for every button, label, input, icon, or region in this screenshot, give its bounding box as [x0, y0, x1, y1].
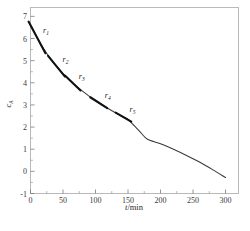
y-tick-label: 6	[23, 35, 27, 44]
rate-labels-group: r1r2r3r4r5	[43, 26, 136, 115]
x-tick-label: 300	[220, 196, 232, 205]
y-axis-title-group: cA	[3, 100, 14, 108]
chart-plot: -101234567 050100150200250300 r1r2r3r4r5…	[0, 0, 250, 231]
y-tick-label: 4	[23, 79, 27, 88]
x-axis-title-group: t/min	[125, 202, 144, 212]
x-axis-title: t/min	[125, 202, 144, 212]
y-tick-label: -1	[20, 190, 27, 199]
rate-label-r4: r4	[105, 91, 111, 101]
x-tick-label: 0	[29, 196, 33, 205]
y-tick-label: 7	[23, 12, 27, 21]
rate-label-r1: r1	[43, 26, 49, 36]
data-curve-group	[31, 25, 226, 177]
y-axis-title: cA	[3, 100, 14, 108]
figure-caption	[0, 223, 250, 231]
rate-label-r3: r3	[79, 72, 85, 82]
y-tick-label: 5	[23, 57, 27, 66]
y-tick-label: 1	[23, 145, 27, 154]
y-tick-label: 3	[23, 101, 27, 110]
figure-container: -101234567 050100150200250300 r1r2r3r4r5…	[0, 0, 250, 231]
rate-label-r2: r2	[63, 55, 69, 65]
concentration-curve	[31, 25, 226, 177]
x-axis-major-ticks	[31, 190, 226, 194]
y-axis-tick-labels: -101234567	[20, 12, 27, 198]
x-tick-label: 250	[187, 196, 199, 205]
x-tick-label: 200	[155, 196, 167, 205]
rate-label-r5: r5	[130, 105, 136, 115]
y-axis-major-ticks	[31, 16, 35, 193]
plot-frame	[31, 8, 239, 194]
x-tick-label: 50	[59, 196, 67, 205]
x-tick-label: 100	[90, 196, 102, 205]
y-tick-label: 0	[23, 167, 27, 176]
y-tick-label: 2	[23, 123, 27, 132]
